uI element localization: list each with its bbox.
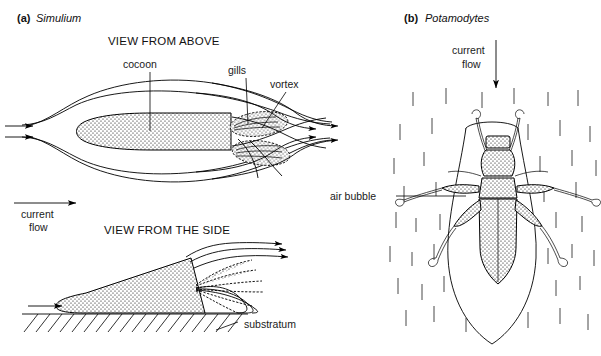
substratum-label: substratum [244,318,296,330]
current-flow-label-a-line2: flow [29,221,48,233]
vortex-label: vortex [270,78,299,90]
beetle-head [486,136,510,148]
figure-canvas: (a) Simulium VIEW FROM ABOVE cocoon [0,0,601,356]
beetle-pronotum [481,150,515,176]
panel-b-taxon: Potamodytes [425,12,490,24]
current-flow-label-b-line1: current [452,44,485,56]
beetle-thorax [479,178,517,198]
view-from-side-title: VIEW FROM THE SIDE [104,224,230,236]
cocoon-body [77,113,232,150]
cocoon-label: cocoon [123,58,157,70]
panel-b-letter: (b) [404,12,418,24]
view-from-above-title: VIEW FROM ABOVE [108,35,220,47]
current-flow-label-b-line2: flow [462,58,481,70]
current-flow-label-a-line1: current [21,208,54,220]
gills-label: gills [228,64,246,76]
air-bubble-label: air bubble [330,190,376,202]
panel-a-letter: (a) [17,12,31,24]
panel-a-taxon: Simulium [36,12,81,24]
